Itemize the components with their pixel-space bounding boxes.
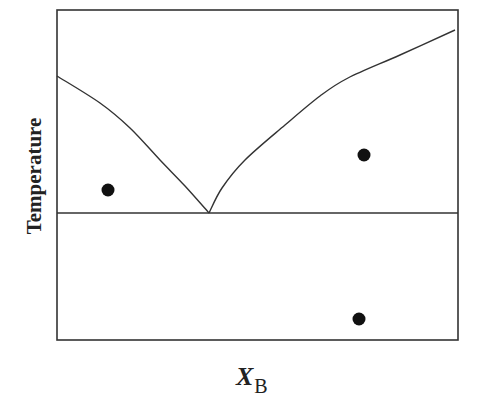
x-axis-label: XB <box>236 362 268 392</box>
state-point-dot <box>102 184 115 197</box>
y-axis-label: Temperature <box>22 118 47 235</box>
x-axis-label-subscript: B <box>254 375 267 397</box>
liquidus-left-curve <box>57 76 209 213</box>
liquidus-right-curve <box>209 30 455 213</box>
x-axis-label-main: X <box>236 362 253 391</box>
phase-diagram <box>0 0 479 419</box>
state-point-dot <box>353 313 366 326</box>
plot-frame <box>57 10 458 340</box>
state-point-dot <box>358 149 371 162</box>
state-points <box>102 149 371 326</box>
